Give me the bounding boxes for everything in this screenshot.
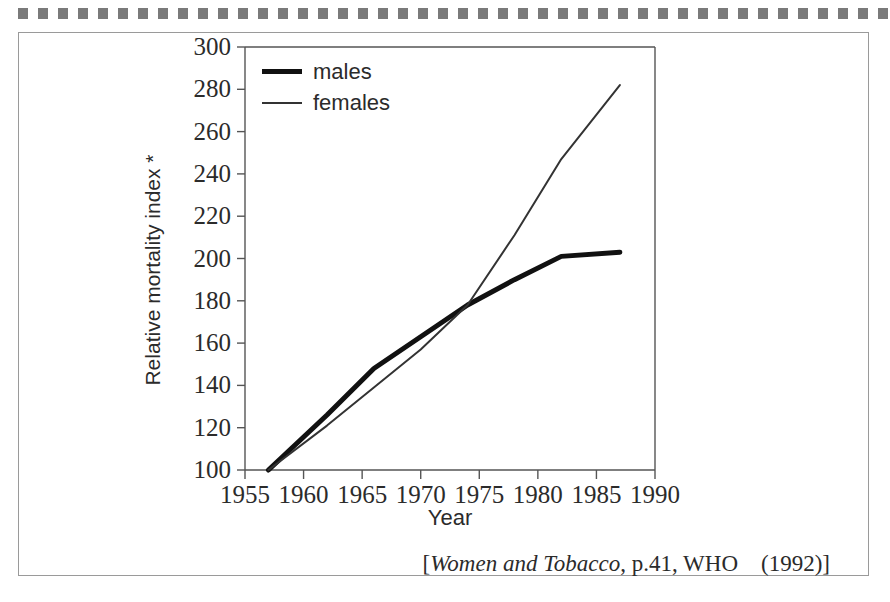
citation-title: Women and Tobacco (430, 551, 620, 576)
decorative-square (158, 8, 168, 19)
y-axis-tick-label: 260 (171, 119, 231, 144)
y-axis-tick-label: 140 (171, 372, 231, 397)
decorative-square (218, 8, 228, 19)
decorative-square-band (0, 8, 890, 22)
y-axis-tick-label: 220 (171, 203, 231, 228)
decorative-square (458, 8, 468, 19)
decorative-square (298, 8, 308, 19)
x-axis-title: Year (245, 505, 655, 531)
legend-item-females: females (262, 87, 492, 118)
decorative-square (18, 8, 28, 19)
y-axis-tick-label: 100 (171, 457, 231, 482)
decorative-square (538, 8, 548, 19)
decorative-square (838, 8, 848, 19)
decorative-square (758, 8, 768, 19)
legend-line-swatch-males (262, 69, 302, 74)
decorative-square (198, 8, 208, 19)
decorative-square (38, 8, 48, 19)
decorative-square (238, 8, 248, 19)
y-axis-tick-label: 180 (171, 288, 231, 313)
x-axis-tick-label: 1990 (615, 482, 695, 507)
decorative-square (698, 8, 708, 19)
y-axis-tick-label: 160 (171, 330, 231, 355)
decorative-square (718, 8, 728, 19)
decorative-square (78, 8, 88, 19)
decorative-square (798, 8, 808, 19)
decorative-square (438, 8, 448, 19)
y-axis-tick-label: 280 (171, 76, 231, 101)
decorative-square (618, 8, 628, 19)
decorative-square (278, 8, 288, 19)
y-axis-tick-label: 240 (171, 161, 231, 186)
decorative-square (118, 8, 128, 19)
decorative-square (498, 8, 508, 19)
y-axis-tick-label: 120 (171, 415, 231, 440)
decorative-square (98, 8, 108, 19)
citation-close-bracket: ] (822, 551, 830, 576)
decorative-square (518, 8, 528, 19)
decorative-square (178, 8, 188, 19)
decorative-square (778, 8, 788, 19)
citation-rest: , p.41, WHO (1992) (620, 551, 822, 576)
y-axis-tick-label: 200 (171, 246, 231, 271)
decorative-square (658, 8, 668, 19)
decorative-square (598, 8, 608, 19)
decorative-square (58, 8, 68, 19)
decorative-square (258, 8, 268, 19)
decorative-square (478, 8, 488, 19)
legend-label-males: males (313, 61, 372, 83)
legend-label-females: females (313, 92, 390, 114)
decorative-square (878, 8, 888, 19)
decorative-square (818, 8, 828, 19)
decorative-square (318, 8, 328, 19)
decorative-square (638, 8, 648, 19)
source-citation: [Women and Tobacco, p.41, WHO (1992)] (0, 544, 852, 578)
legend-line-swatch-females (262, 102, 302, 104)
decorative-square (398, 8, 408, 19)
decorative-square (378, 8, 388, 19)
chart-legend: males females (262, 56, 492, 118)
legend-item-males: males (262, 56, 492, 87)
decorative-square (738, 8, 748, 19)
decorative-square (358, 8, 368, 19)
decorative-square (858, 8, 868, 19)
decorative-square (418, 8, 428, 19)
decorative-square (578, 8, 588, 19)
decorative-square (138, 8, 148, 19)
y-axis-tick-label: 300 (171, 34, 231, 59)
decorative-square (338, 8, 348, 19)
decorative-square (558, 8, 568, 19)
y-axis-title: Relative mortality index * (141, 105, 165, 435)
decorative-square (678, 8, 688, 19)
